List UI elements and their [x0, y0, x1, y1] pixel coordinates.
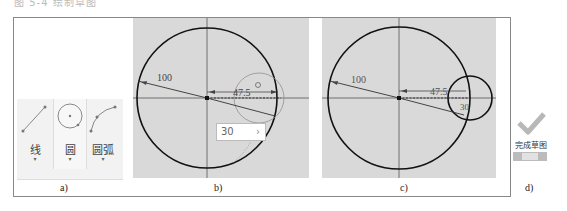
radius-input-value: 30 [221, 126, 234, 137]
dim-radius-b: 100 [157, 72, 172, 83]
confirm-arrow-icon[interactable]: › [256, 124, 260, 140]
sketch-drawing-c: 100 47.5 30 [322, 18, 496, 178]
line-icon [19, 99, 51, 139]
finish-sketch-button[interactable]: 完成草图 [514, 108, 548, 152]
dim-radius-c: 100 [351, 74, 366, 85]
panel-label-c: c) [400, 182, 408, 193]
figure-caption: 图 5-4 绘制草图 [14, 0, 97, 9]
sketch-drawing-b: 100 47.5 [133, 18, 309, 178]
chevron-down-icon[interactable]: ▾ [54, 155, 86, 162]
checkmark-icon [514, 108, 548, 138]
exit-button[interactable] [513, 152, 547, 161]
radius-input[interactable]: 30 › [216, 123, 266, 141]
circle-icon [54, 99, 86, 139]
dim-small-radius-c: 30 [460, 102, 470, 112]
sketch-canvas-c[interactable]: 100 47.5 30 [322, 18, 496, 178]
finish-sketch-label: 完成草图 [510, 139, 552, 150]
chevron-down-icon[interactable]: ▾ [19, 155, 51, 162]
circle-tool-button[interactable]: 圆 ▾ [53, 99, 87, 169]
panel-label-d: d) [525, 182, 533, 193]
arc-icon [87, 99, 119, 139]
line-tool-button[interactable]: 线 ▾ [19, 99, 51, 169]
exit-label-block [522, 153, 538, 160]
chevron-down-icon[interactable]: ▾ [87, 155, 119, 162]
sketch-toolbar: 线 ▾ 圆 ▾ 圆弧 ▾ [17, 99, 123, 180]
dim-offset-b: 47.5 [233, 87, 251, 98]
arc-tool-button[interactable]: 圆弧 ▾ [87, 99, 119, 169]
sketch-canvas-b[interactable]: 100 47.5 30 › [133, 18, 309, 178]
panel-label-b: b) [214, 182, 222, 193]
panel-label-a: a) [60, 182, 68, 193]
dim-offset-c: 47.5 [430, 86, 448, 97]
